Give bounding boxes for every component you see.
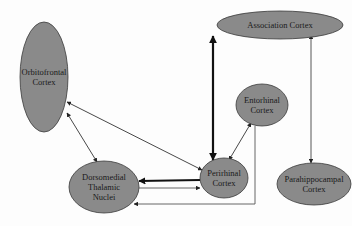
connectivity-diagram: OrbitofrontalCortexAssociation CortexEnt… [0, 0, 352, 226]
node-label-entorhinal: Cortex [250, 105, 274, 115]
edge-orbitofrontal-perirhinal [67, 102, 202, 170]
node-label-orbitofrontal: Cortex [32, 77, 56, 87]
node-parahippocampal: ParahippocampalCortex [277, 163, 351, 205]
node-orbitofrontal: OrbitofrontalCortex [20, 22, 68, 132]
node-label-parahippocampal: Parahippocampal [284, 174, 344, 184]
diagram-canvas: OrbitofrontalCortexAssociation CortexEnt… [0, 0, 352, 226]
node-dorsomedial: DorsomedialThalamicNuclei [69, 161, 139, 213]
node-label-dorsomedial: Thalamic [88, 182, 120, 192]
node-perirhinal: PerirhinalCortex [200, 158, 248, 198]
node-label-dorsomedial: Nuclei [93, 192, 116, 202]
node-label-parahippocampal: Cortex [302, 184, 326, 194]
node-label-entorhinal: Entorhinal [244, 95, 281, 105]
node-label-dorsomedial: Dorsomedial [82, 172, 127, 182]
nodes: OrbitofrontalCortexAssociation CortexEnt… [20, 11, 351, 213]
node-label-orbitofrontal: Orbitofrontal [22, 67, 67, 77]
node-label-association: Association Cortex [247, 20, 313, 30]
node-association: Association Cortex [217, 11, 343, 39]
edge-perirhinal-to-dorsomedial [139, 180, 200, 181]
node-label-perirhinal: Cortex [212, 178, 236, 188]
node-label-perirhinal: Perirhinal [207, 168, 241, 178]
node-entorhinal: EntorhinalCortex [236, 84, 288, 126]
edge-entorhinal-perirhinal [229, 123, 251, 160]
edge-orbitofrontal-dorsomedial [67, 113, 97, 162]
